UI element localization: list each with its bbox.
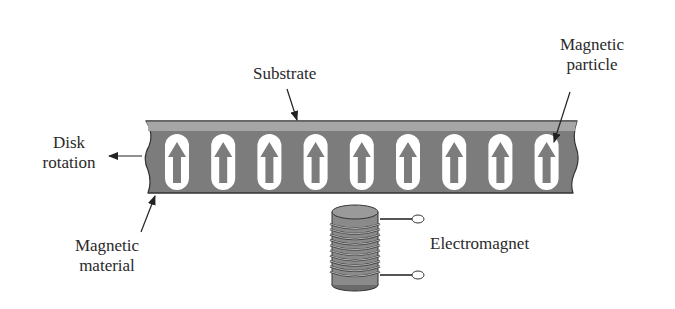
- magnetic-particle: [535, 134, 559, 190]
- substrate-label: Substrate: [253, 64, 316, 84]
- magnetic-particle: [396, 134, 420, 190]
- electromagnet-coil-icon: [330, 205, 424, 291]
- magnetic-particles: [165, 134, 559, 190]
- magnetic-particle-label: Magnetic particle: [552, 35, 632, 75]
- magnetic-material-label-line1: Magnetic: [62, 236, 152, 256]
- disk-rotation-label-line1: Disk: [29, 133, 109, 153]
- magnetic-particle: [257, 134, 281, 190]
- magnetic-material-label: Magnetic material: [62, 236, 152, 276]
- magnetic-material-label-line2: material: [62, 256, 152, 276]
- magnetic-particle: [211, 134, 235, 190]
- electromagnet-label: Electromagnet: [430, 234, 529, 254]
- magnetic-particle-label-line1: Magnetic: [552, 35, 632, 55]
- magnetic-particle-label-line2: particle: [552, 55, 632, 75]
- magnetic-particle: [442, 134, 466, 190]
- magnetic-particle: [488, 134, 512, 190]
- disk-rotation-label: Disk rotation: [29, 133, 109, 173]
- magnetic-material-arrow: [141, 196, 155, 232]
- substrate-layer: [146, 121, 577, 131]
- magnetic-particle: [350, 134, 374, 190]
- magnetic-particle: [304, 134, 328, 190]
- magnetic-particle: [165, 134, 189, 190]
- disk-rotation-label-line2: rotation: [29, 153, 109, 173]
- substrate-arrow: [287, 89, 297, 120]
